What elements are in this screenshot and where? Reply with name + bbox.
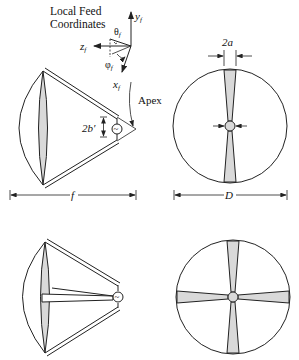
theta-label: θf <box>114 26 122 39</box>
coord-title-line2: Coordinates <box>50 18 106 30</box>
antenna-diagram: Local Feed Coordinates yf zf xf θf φf <box>0 0 299 360</box>
coord-title-line1: Local Feed <box>50 5 102 17</box>
x-axis-label: xf <box>112 78 121 92</box>
front-view-two-arm: 2a <box>173 36 287 183</box>
diameter-label: D <box>224 189 233 201</box>
z-axis-label: zf <box>79 40 87 54</box>
y-axis-label: yf <box>134 10 143 24</box>
width-label: 2a <box>222 36 234 48</box>
phi-label: φf <box>105 59 114 72</box>
local-feed-coordinates: Local Feed Coordinates yf zf xf θf φf <box>50 5 143 92</box>
apex-label: Apex <box>138 94 162 106</box>
side-view-reflector: ~ 2b′ Apex <box>19 68 162 188</box>
svg-text:~: ~ <box>114 124 119 134</box>
diameter-dimension: D <box>174 189 287 201</box>
side-view-four-arm: ~ <box>23 239 124 356</box>
gap-label: 2b′ <box>82 122 96 134</box>
focal-length-label: f <box>71 189 76 201</box>
focal-length-dimension: f <box>10 189 136 201</box>
front-view-four-arm <box>176 240 290 354</box>
svg-text:~: ~ <box>115 292 120 302</box>
